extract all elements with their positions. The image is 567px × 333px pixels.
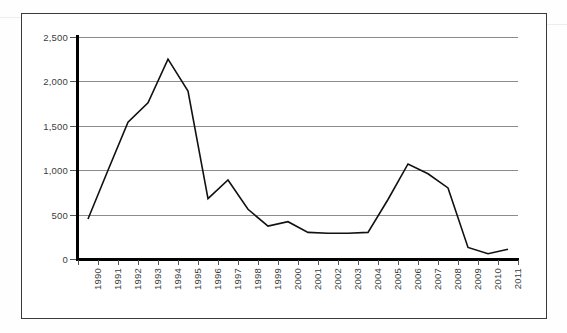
x-tick-mark <box>378 260 379 265</box>
x-tick-mark <box>178 260 179 265</box>
y-axis-tick-label: 2,500 <box>43 32 68 43</box>
x-axis-tick-label: 2007 <box>432 268 443 290</box>
data-series-line <box>78 37 518 259</box>
y-tick-mark <box>70 37 76 38</box>
x-tick-mark <box>358 260 359 265</box>
y-axis-tick-label: 500 <box>52 209 68 220</box>
y-tick-mark <box>70 215 76 216</box>
x-tick-mark <box>278 260 279 265</box>
x-axis-tick-label: 2004 <box>372 268 383 290</box>
scanned-page: 05001,0001,5002,0002,500 199019911992199… <box>0 0 567 333</box>
y-axis-tick-label: 1,500 <box>43 120 68 131</box>
x-tick-mark <box>438 260 439 265</box>
x-tick-mark <box>78 260 79 265</box>
x-axis-tick-label: 1990 <box>92 268 103 290</box>
x-tick-mark <box>158 260 159 265</box>
x-tick-mark <box>118 260 119 265</box>
x-tick-mark <box>238 260 239 265</box>
x-axis-tick-label: 1991 <box>112 268 123 290</box>
x-axis-tick-label: 2009 <box>472 268 483 290</box>
x-tick-mark <box>498 260 499 265</box>
x-axis-tick-label: 2003 <box>352 268 363 290</box>
x-tick-mark <box>478 260 479 265</box>
x-tick-mark <box>318 260 319 265</box>
y-axis-labels: 05001,0001,5002,0002,500 <box>0 0 68 333</box>
x-axis-tick-label: 2011 <box>512 268 523 289</box>
x-tick-mark <box>98 260 99 265</box>
x-axis-tick-label: 1999 <box>272 268 283 290</box>
x-axis-tick-label: 1998 <box>252 268 263 290</box>
x-tick-mark <box>258 260 259 265</box>
x-axis-tick-label: 1995 <box>192 268 203 290</box>
x-axis-tick-label: 2008 <box>452 268 463 290</box>
x-axis-tick-label: 1997 <box>232 268 243 290</box>
x-tick-mark <box>458 260 459 265</box>
x-tick-mark <box>138 260 139 265</box>
x-tick-mark <box>218 260 219 265</box>
y-axis-tick-label: 2,000 <box>43 76 68 87</box>
x-axis-tick-label: 2010 <box>492 268 503 290</box>
y-axis-tick-label: 1,000 <box>43 165 68 176</box>
x-tick-mark <box>298 260 299 265</box>
x-axis-tick-label: 1994 <box>172 268 183 290</box>
x-axis-tick-label: 2002 <box>332 268 343 290</box>
y-axis-tick-label: 0 <box>63 254 68 265</box>
series-path <box>88 59 508 253</box>
y-tick-mark <box>70 81 76 82</box>
x-axis-tick-label: 2001 <box>312 268 323 290</box>
x-tick-mark <box>418 260 419 265</box>
x-axis-tick-label: 2005 <box>392 268 403 290</box>
y-tick-mark <box>70 126 76 127</box>
x-tick-mark <box>338 260 339 265</box>
x-axis-tick-label: 1992 <box>132 268 143 290</box>
x-tick-mark <box>198 260 199 265</box>
x-axis-tick-label: 1996 <box>212 268 223 290</box>
x-axis-tick-label: 1993 <box>152 268 163 290</box>
y-tick-mark <box>70 259 76 260</box>
x-tick-mark <box>398 260 399 265</box>
x-axis-tick-label: 2006 <box>412 268 423 290</box>
x-tick-mark <box>518 260 519 265</box>
x-axis-tick-label: 2000 <box>292 268 303 290</box>
line-chart-figure: 05001,0001,5002,0002,500 199019911992199… <box>0 0 567 333</box>
y-tick-mark <box>70 170 76 171</box>
